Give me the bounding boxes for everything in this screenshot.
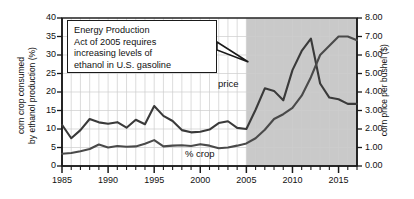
energy-policy-callout: Energy Production Act of 2005 requires i… [67, 20, 217, 73]
x-axis-tick-2010: 2010 [272, 175, 312, 185]
y-axis-left-tick-25: 25 [26, 68, 56, 78]
x-axis-tick-1990: 1990 [88, 175, 128, 185]
y-axis-right-tick-6.00: 6.00 [365, 49, 397, 59]
y-axis-right-tick-0.00: 0.00 [365, 160, 397, 170]
callout-line-1: Energy Production [74, 25, 211, 37]
y-axis-left-tick-10: 10 [26, 123, 56, 133]
y-axis-left-tick-30: 30 [26, 49, 56, 59]
series-label-crop: % crop [185, 148, 215, 159]
y-axis-right-tick-3.00: 3.00 [365, 105, 397, 115]
y-axis-right-tick-1.00: 1.00 [365, 142, 397, 152]
y-axis-left-tick-15: 15 [26, 105, 56, 115]
y-axis-left-tick-0: 0 [26, 160, 56, 170]
y-axis-right-tick-2.00: 2.00 [365, 123, 397, 133]
y-axis-left-tick-40: 40 [26, 12, 56, 22]
callout-line-4: ethanol in U.S. gasoline [74, 60, 211, 72]
series-label-price: price [218, 78, 239, 89]
x-axis-tick-2005: 2005 [226, 175, 266, 185]
y-axis-left-tick-5: 5 [26, 142, 56, 152]
chart-container: corn crop consumed by ethanol production… [0, 0, 414, 199]
y-axis-left-tick-35: 35 [26, 31, 56, 41]
y-axis-right-tick-8.00: 8.00 [365, 12, 397, 22]
y-axis-right-tick-5.00: 5.00 [365, 68, 397, 78]
y-axis-right-tick-4.00: 4.00 [365, 86, 397, 96]
y-axis-left-tick-20: 20 [26, 86, 56, 96]
x-axis-tick-2015: 2015 [319, 175, 359, 185]
x-axis-tick-1985: 1985 [42, 175, 82, 185]
y-axis-right-tick-7.00: 7.00 [365, 31, 397, 41]
callout-line-2: Act of 2005 requires [74, 37, 211, 49]
x-axis-tick-2000: 2000 [180, 175, 220, 185]
callout-line-3: increasing levels of [74, 48, 211, 60]
x-axis-tick-1995: 1995 [134, 175, 174, 185]
